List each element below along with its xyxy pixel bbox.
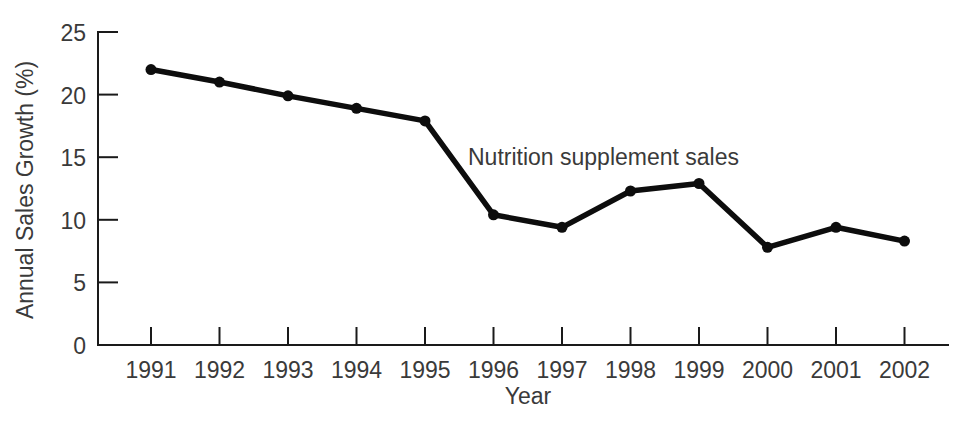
x-tick-label: 1999 [673,357,724,383]
data-point [625,186,636,197]
y-axis-tick-labels: 25 20 15 10 5 0 [60,20,86,359]
x-tick-label: 2002 [879,357,930,383]
data-point [694,178,705,189]
x-tick-label: 1991 [125,357,176,383]
data-point [899,236,910,247]
data-point [283,90,294,101]
x-tick-label: 1994 [331,357,382,383]
x-tick-label: 1995 [399,357,450,383]
chart-page: 25 20 15 10 5 0 1991 1992 1993 [0,0,972,430]
y-axis-ticks [98,32,118,282]
y-tick-label: 0 [73,333,86,359]
data-point [351,103,362,114]
data-point [831,222,842,233]
y-axis-title: Annual Sales Growth (%) [12,61,38,319]
y-tick-label: 25 [60,20,86,46]
x-tick-label: 1997 [536,357,587,383]
x-tick-label: 1998 [605,357,656,383]
y-tick-label: 10 [60,208,86,234]
data-point [146,64,157,75]
y-tick-label: 15 [60,145,86,171]
x-tick-label: 1993 [262,357,313,383]
x-tick-label: 1996 [468,357,519,383]
x-tick-label: 2001 [810,357,861,383]
x-axis-tick-labels: 1991 1992 1993 1994 1995 1996 1997 1998 … [125,357,930,383]
data-point [420,115,431,126]
data-point [762,242,773,253]
x-tick-label: 2000 [742,357,793,383]
data-point [557,222,568,233]
y-tick-label: 5 [73,270,86,296]
series-annotation-label: Nutrition supplement sales [468,144,739,170]
x-axis-ticks [151,327,905,345]
data-point [214,77,225,88]
line-chart: 25 20 15 10 5 0 1991 1992 1993 [0,0,972,430]
data-point [488,209,499,220]
x-axis-title: Year [505,383,552,409]
y-tick-label: 20 [60,83,86,109]
x-tick-label: 1992 [194,357,245,383]
